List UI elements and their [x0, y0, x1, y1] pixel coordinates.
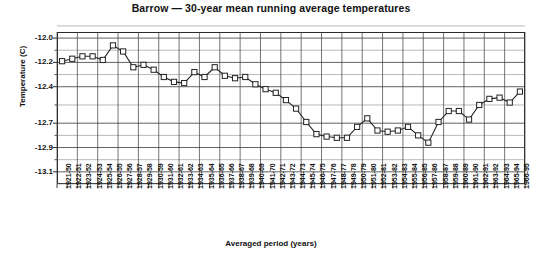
y-tick-label: -13.1: [13, 167, 53, 176]
x-tick-label: 1952-81: [380, 163, 387, 189]
x-tick-label: 1935-64: [208, 163, 215, 189]
x-tick-label: 1955-84: [411, 163, 418, 189]
x-tick-label: 1929-58: [146, 163, 153, 189]
y-tick-label: -12.4: [13, 82, 53, 91]
x-tick-label: 1936-65: [218, 163, 225, 189]
data-series: [59, 43, 522, 145]
x-tick-label: 1937-66: [228, 163, 235, 189]
x-tick-label: 1944-73: [299, 163, 306, 189]
x-tick-label: 1924-53: [96, 163, 103, 189]
chart-container: Barrow — 30-year mean running average te…: [0, 0, 542, 256]
x-tick-label: 1939-68: [248, 163, 255, 189]
x-tick-label: 1960-89: [462, 163, 469, 189]
x-tick-label: 1921-50: [65, 163, 72, 189]
x-tick-label: 1965-94: [513, 163, 520, 189]
x-tick-label: 1945-74: [309, 163, 316, 189]
y-tick-label: -12.7: [13, 118, 53, 127]
x-tick-label: 1938-67: [238, 163, 245, 189]
x-tick-label: 1959-88: [452, 163, 459, 189]
y-tick-label: -12.0: [13, 33, 53, 42]
x-tick-label: 1957-86: [431, 163, 438, 189]
y-tick-label: -12.9: [13, 143, 53, 152]
x-tick-label: 1948-77: [340, 163, 347, 189]
x-tick-label: 1922-51: [75, 163, 82, 189]
x-tick-label: 1923-52: [85, 163, 92, 189]
x-tick-label: 1930-59: [157, 163, 164, 189]
x-axis-title: Averaged period (years): [0, 239, 542, 248]
x-tick-label: 1932-61: [177, 163, 184, 189]
x-tick-label: 1927-56: [126, 163, 133, 189]
x-tick-label: 1954-83: [401, 163, 408, 189]
x-tick-label: 1942-71: [279, 163, 286, 189]
x-tick-label: 1966-95: [523, 163, 530, 189]
x-tick-label: 1934-63: [197, 163, 204, 189]
x-tick-label: 1950-79: [360, 163, 367, 189]
x-tick-label: 1943-72: [289, 163, 296, 189]
x-tick-label: 1933-62: [187, 163, 194, 189]
x-tick-label: 1953-82: [391, 163, 398, 189]
x-tick-label: 1962-91: [482, 163, 489, 189]
x-tick-label: 1961-90: [472, 163, 479, 189]
x-tick-label: 1964-93: [503, 163, 510, 189]
x-tick-label: 1946-75: [319, 163, 326, 189]
y-tick-label: -12.2: [13, 57, 53, 66]
x-tick-label: 1931-60: [167, 163, 174, 189]
x-tick-label: 1926-55: [116, 163, 123, 189]
x-tick-label: 1947-76: [330, 163, 337, 189]
x-tick-label: 1941-70: [269, 163, 276, 189]
x-tick-label: 1928-57: [136, 163, 143, 189]
x-tick-label: 1951-80: [370, 163, 377, 189]
x-tick-label: 1925-54: [106, 163, 113, 189]
x-tick-label: 1958-87: [442, 163, 449, 189]
x-tick-label: 1963-92: [492, 163, 499, 189]
x-tick-label: 1949-78: [350, 163, 357, 189]
x-tick-label: 1956-85: [421, 163, 428, 189]
x-tick-label: 1940-69: [258, 163, 265, 189]
plot-graphics: [0, 0, 542, 256]
